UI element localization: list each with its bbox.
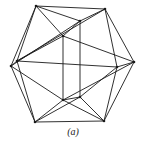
vertex-dot <box>10 65 13 68</box>
edge-line <box>104 62 134 121</box>
vertex-dot <box>133 61 136 64</box>
edge-line <box>17 6 36 61</box>
vertex-dot <box>16 60 19 63</box>
edge-line <box>35 97 80 122</box>
edge-line <box>63 62 134 100</box>
edge-line <box>104 67 117 121</box>
edge-line <box>11 21 80 66</box>
vertex-dot <box>79 96 82 99</box>
vertex-dot <box>116 66 119 69</box>
edge-line <box>17 61 117 67</box>
edge-line <box>17 61 35 122</box>
edge-line <box>36 6 105 9</box>
vertex-dot <box>35 5 38 8</box>
edge-line <box>63 21 80 36</box>
vertex-dot <box>34 121 37 124</box>
edge-line <box>35 121 104 122</box>
edge-line <box>80 67 117 97</box>
edge-line <box>11 66 63 100</box>
vertex-dot <box>62 99 65 102</box>
edge-line <box>105 9 117 67</box>
vertex-dot <box>62 35 65 38</box>
icosahedron-diagram <box>0 0 146 145</box>
figure-caption: (a) <box>0 126 146 137</box>
vertex-dot <box>79 20 82 23</box>
edge-line <box>80 97 104 121</box>
edge-line <box>35 100 63 122</box>
vertex-dot <box>103 120 106 123</box>
vertex-dot <box>104 8 107 11</box>
edge-line <box>105 9 134 62</box>
edge-line <box>11 66 35 122</box>
edge-line <box>63 36 134 62</box>
